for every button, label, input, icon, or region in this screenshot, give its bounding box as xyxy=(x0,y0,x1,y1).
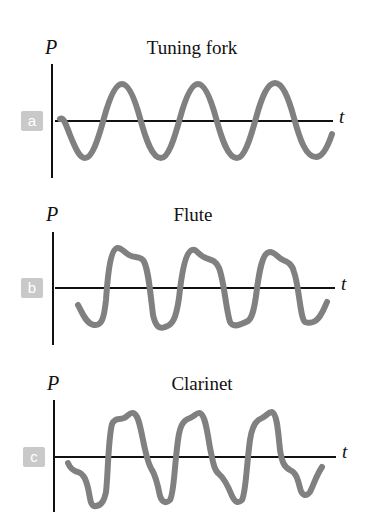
clarinet-wave xyxy=(68,412,322,506)
waveform-graphics xyxy=(0,0,378,532)
